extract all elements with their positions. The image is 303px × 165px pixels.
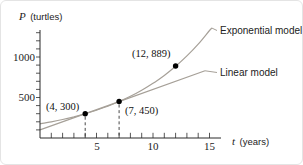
x-axis-title: t (years)	[232, 131, 269, 149]
linear-label-leader	[205, 71, 217, 73]
point-label-12-889: (12, 889)	[132, 48, 171, 60]
y-axis-unit: (turtles)	[30, 11, 62, 22]
data-point-4-300	[83, 111, 88, 116]
linear-model-label: Linear model	[220, 67, 278, 79]
y-tick-label-500: 500	[7, 91, 35, 103]
data-point-12-889	[173, 63, 178, 68]
x-axis-variable: t	[232, 135, 235, 147]
turtle-population-chart: P (turtles) t (years) 1000 500 5 10 15 (…	[0, 0, 303, 165]
exponential-model-label: Exponential model	[220, 25, 302, 37]
exponential-label-leader	[212, 28, 217, 30]
point-label-4-300: (4, 300)	[46, 101, 79, 113]
x-tick-label-5: 5	[89, 140, 105, 152]
x-axis-unit: (years)	[240, 136, 270, 147]
y-axis-variable: P	[19, 10, 26, 22]
x-tick-label-15: 15	[201, 140, 218, 152]
data-point-7-450	[116, 99, 121, 104]
y-axis-title: P (turtles)	[19, 6, 62, 24]
x-tick-label-10: 10	[145, 140, 161, 152]
y-tick-label-1000: 1000	[7, 51, 35, 63]
point-label-7-450: (7, 450)	[125, 105, 158, 117]
